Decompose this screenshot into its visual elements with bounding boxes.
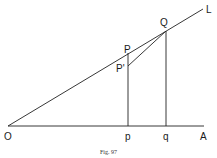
label-A: A xyxy=(200,131,207,142)
segment-PprimeQ xyxy=(128,31,166,66)
label-O: O xyxy=(4,131,12,142)
label-Q: Q xyxy=(160,17,168,28)
label-p: p xyxy=(125,131,131,142)
label-q: q xyxy=(163,131,169,142)
geometry-figure: O L Q P P' p q A Fig. 97 xyxy=(0,0,217,158)
figure-caption: Fig. 97 xyxy=(100,149,117,155)
label-P: P xyxy=(124,44,131,55)
line-OL xyxy=(8,9,203,126)
label-L: L xyxy=(206,4,212,15)
label-P-prime: P' xyxy=(116,63,125,74)
